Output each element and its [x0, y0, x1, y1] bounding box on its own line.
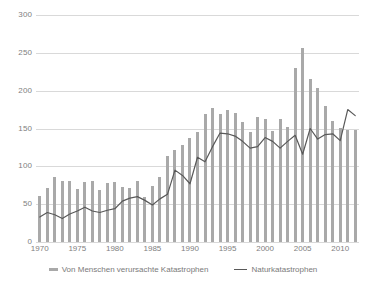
y-axis-tick-label: 250 [4, 49, 32, 57]
legend-item-natural: Naturkatastrophen [234, 265, 317, 274]
y-axis-tick-label: 50 [4, 200, 32, 208]
y-axis-tick-label: 150 [4, 125, 32, 133]
bar-swatch-icon [49, 268, 58, 271]
x-axis-tick-label: 1975 [68, 245, 86, 253]
x-axis-tick-label: 1980 [106, 245, 124, 253]
y-axis-tick-label: 200 [4, 87, 32, 95]
x-axis-tick-label: 1985 [144, 245, 162, 253]
naturkatastrophen-line [40, 110, 355, 219]
x-axis-tick-label: 2005 [294, 245, 312, 253]
y-axis-tick-label: 0 [4, 238, 32, 246]
x-axis: 197019751980198519901995200020052010 [36, 243, 359, 257]
plot-area [36, 15, 359, 242]
chart-legend: Von Menschen verursachte Katastrophen Na… [0, 265, 366, 274]
y-axis-tick-label: 100 [4, 162, 32, 170]
y-axis-tick-label: 300 [4, 11, 32, 19]
x-axis-tick-label: 2000 [256, 245, 274, 253]
x-axis-tick-label: 1970 [31, 245, 49, 253]
legend-label-manmade: Von Menschen verursachte Katastrophen [62, 265, 209, 274]
x-axis-tick-label: 2010 [331, 245, 349, 253]
disaster-count-chart: 050100150200250300 197019751980198519901… [0, 0, 366, 287]
legend-item-manmade: Von Menschen verursachte Katastrophen [49, 265, 209, 274]
x-axis-tick-label: 1990 [181, 245, 199, 253]
x-axis-tick-label: 1995 [219, 245, 237, 253]
line-series [36, 15, 359, 242]
legend-label-natural: Naturkatastrophen [251, 265, 317, 274]
line-swatch-icon [234, 269, 247, 270]
